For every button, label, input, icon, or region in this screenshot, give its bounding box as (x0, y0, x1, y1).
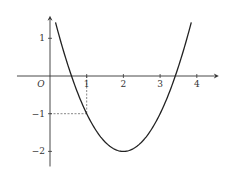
origin-label: O (37, 79, 45, 89)
axes (17, 16, 219, 167)
guide-lines (50, 76, 87, 114)
ticks: O12341−1−2 (32, 33, 200, 156)
function-plot: O12341−1−2 (0, 0, 227, 177)
y-tick-label: 1 (39, 33, 45, 43)
x-tick-label: 2 (121, 79, 127, 89)
y-tick-label: −2 (32, 146, 45, 156)
y-tick-label: −1 (32, 109, 45, 119)
x-tick-label: 1 (84, 79, 90, 89)
x-tick-label: 4 (194, 79, 200, 89)
x-tick-label: 3 (157, 79, 163, 89)
